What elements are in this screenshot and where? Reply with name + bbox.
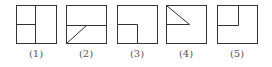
figure-2 xyxy=(67,6,107,44)
figure-1 xyxy=(17,6,57,44)
figure-label-3: (3) xyxy=(115,48,159,59)
figure-label-4: (4) xyxy=(164,48,208,59)
figure-4 xyxy=(167,6,207,44)
figure-label-1: (1) xyxy=(14,48,58,59)
figure-label-5: (5) xyxy=(215,48,259,59)
figure-3 xyxy=(118,6,158,44)
figure-label-2: (2) xyxy=(64,48,108,59)
figure-5 xyxy=(218,6,258,44)
